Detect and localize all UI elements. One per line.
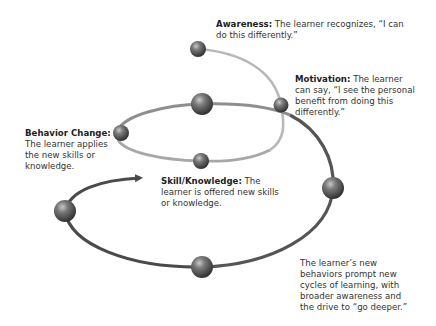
ball-outer-bottom [191, 256, 213, 278]
label-motivation: Motivation: The learner can say, “I see … [295, 74, 420, 118]
behavior-change-heading: Behavior Change: [25, 128, 111, 138]
ball-upper-center [191, 93, 213, 115]
label-awareness: Awareness: The learner recognizes, “I ca… [216, 19, 406, 41]
ball-motivation [274, 98, 289, 113]
behavior-change-text: The learner applies the new skills or kn… [25, 139, 108, 171]
spiral-arrow [65, 178, 140, 211]
ball-outer-left [54, 200, 76, 222]
skill-knowledge-heading: Skill/Knowledge: [161, 176, 242, 186]
label-skill-knowledge: Skill/Knowledge: The learner is offered … [161, 176, 286, 209]
motivation-heading: Motivation: [295, 74, 350, 84]
awareness-heading: Awareness: [216, 19, 272, 29]
label-new-cycle: The learner’s new behaviors prompt new c… [300, 258, 412, 313]
ball-awareness [190, 41, 206, 57]
ball-skill-knowledge [193, 153, 209, 169]
spiral-segment-outer-left [65, 211, 202, 267]
ball-outer-right [322, 177, 344, 199]
new-cycle-text: The learner’s new behaviors prompt new c… [300, 258, 407, 312]
label-behavior-change: Behavior Change: The learner applies the… [25, 128, 113, 172]
ball-behavior-change [113, 125, 129, 141]
